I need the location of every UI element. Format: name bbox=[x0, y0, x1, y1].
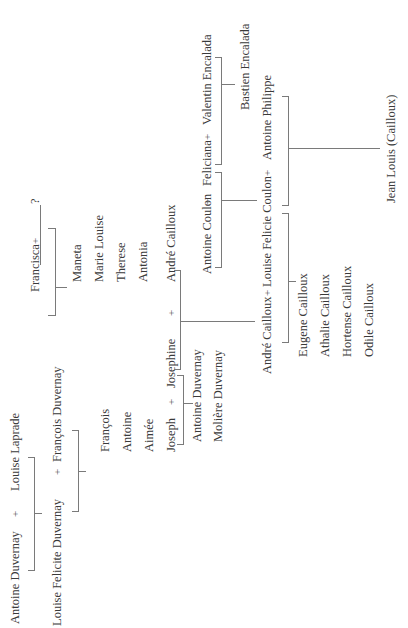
couple-connector: + bbox=[164, 399, 178, 405]
couple-bracket-line bbox=[215, 57, 222, 58]
descent-line bbox=[78, 471, 86, 472]
couple-bracket-line bbox=[72, 511, 79, 512]
couple-bracket-line bbox=[221, 57, 222, 165]
couple-bracket-line bbox=[215, 267, 222, 268]
couple-bracket-line bbox=[177, 375, 184, 376]
person-moliere-duvernay: Molière Duvernay bbox=[211, 350, 225, 442]
person-antoine-duvernay-jr: Antoine Duvernay bbox=[190, 349, 204, 442]
unknown-partner-line bbox=[40, 205, 41, 265]
person-antoine-philippe: Antoine Philippe bbox=[260, 75, 274, 160]
couple-bracket-line bbox=[282, 342, 289, 343]
couple-bracket-line bbox=[34, 457, 35, 571]
couple-bracket-line bbox=[215, 172, 222, 173]
person-aimee: Aimée bbox=[142, 419, 156, 452]
couple-bracket-line bbox=[288, 213, 289, 343]
descent-line bbox=[221, 84, 235, 85]
person-athalie-cailloux: Athalie Cailloux bbox=[318, 274, 332, 357]
descent-line bbox=[288, 281, 296, 282]
couple-connector: + bbox=[200, 134, 214, 140]
couple-bracket-line bbox=[55, 228, 56, 316]
couple-bracket-line bbox=[215, 164, 222, 165]
person-antoine: Antoine bbox=[120, 412, 134, 452]
person-hortense-cailloux: Hortense Cailloux bbox=[340, 266, 354, 357]
person-valentin-encalada: Valentin Encalada bbox=[200, 34, 214, 125]
couple-connector: + bbox=[260, 170, 274, 176]
person-louise-laprade: Louise Laprade bbox=[8, 413, 22, 491]
couple-connector: + bbox=[260, 290, 274, 296]
family-tree-diagram: Antoine Duvernay + Louise Laprade Louise… bbox=[0, 0, 408, 628]
person-josephine: Josephine bbox=[164, 339, 178, 388]
person-odile-cailloux: Odile Cailloux bbox=[362, 283, 376, 357]
couple-connector: + bbox=[200, 199, 214, 205]
couple-bracket-line bbox=[28, 570, 35, 571]
couple-bracket-line bbox=[48, 315, 56, 316]
person-francois: François bbox=[98, 409, 112, 452]
person-maneta: Maneta bbox=[70, 245, 84, 282]
descent-line bbox=[288, 148, 380, 149]
couple-bracket-line bbox=[282, 213, 289, 214]
person-unknown: ? bbox=[28, 198, 42, 204]
descent-line bbox=[221, 200, 257, 201]
person-eugene-cailloux: Eugene Cailloux bbox=[296, 273, 310, 357]
couple-bracket-line bbox=[282, 96, 289, 97]
couple-bracket-line bbox=[282, 205, 289, 206]
person-marie-louise: Marie Louise bbox=[92, 215, 106, 282]
couple-bracket-line bbox=[183, 375, 184, 445]
couple-bracket-line bbox=[174, 270, 181, 271]
person-bastien-encalada: Bastien Encalada bbox=[238, 24, 252, 110]
couple-bracket-line bbox=[180, 270, 181, 370]
person-francois-duvernay: François Duvernay bbox=[50, 367, 64, 462]
couple-connector: + bbox=[50, 469, 64, 475]
couple-bracket-line bbox=[288, 96, 289, 206]
descent-line bbox=[34, 513, 42, 514]
couple-bracket-line bbox=[72, 430, 79, 431]
person-louise-felicie-coulon: Louise Felicie Coulon bbox=[260, 176, 274, 287]
person-antoine-duvernay-sr: Antoine Duvernay bbox=[8, 531, 22, 624]
couple-bracket-line bbox=[221, 172, 222, 268]
person-andre-cailloux-jr: André Cailloux bbox=[260, 297, 274, 374]
person-jean-louis-cailloux: Jean Louis (Cailloux) bbox=[384, 95, 398, 203]
person-therese: Therese bbox=[114, 242, 128, 282]
couple-bracket-line bbox=[177, 444, 184, 445]
couple-bracket-line bbox=[48, 228, 56, 229]
descent-line bbox=[55, 287, 67, 288]
couple-bracket-line bbox=[28, 457, 35, 458]
person-antoine-coulon: Antoine Coulon bbox=[200, 194, 214, 274]
person-joseph: Joseph bbox=[164, 418, 178, 452]
couple-connector: + bbox=[8, 511, 22, 517]
person-antonia: Antonia bbox=[136, 242, 150, 282]
person-feliciana: Feliciana bbox=[200, 140, 214, 186]
person-louise-felicite-duvernay: Louise Felicite Duvernay bbox=[50, 499, 64, 626]
descent-line bbox=[180, 321, 255, 322]
couple-bracket-line bbox=[174, 369, 181, 370]
couple-connector: + bbox=[164, 310, 178, 316]
